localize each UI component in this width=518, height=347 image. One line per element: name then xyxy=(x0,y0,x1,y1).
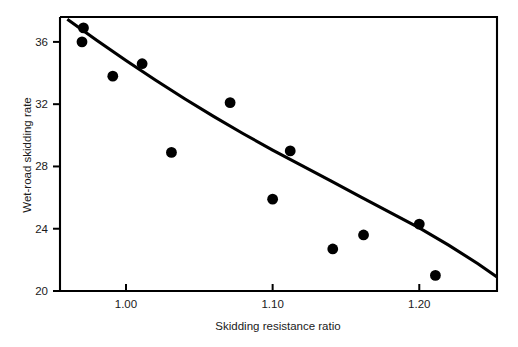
x-tick-label: 1.10 xyxy=(261,298,283,310)
data-point xyxy=(78,23,89,34)
fitted-curve xyxy=(67,19,497,277)
data-point xyxy=(430,270,441,281)
y-tick-label: 32 xyxy=(35,98,48,110)
data-point xyxy=(77,37,88,48)
y-tick-label: 28 xyxy=(35,160,48,172)
data-point xyxy=(267,194,278,205)
data-point xyxy=(414,219,425,230)
data-point xyxy=(285,145,296,156)
x-axis-tick-labels: 1.001.101.20 xyxy=(115,298,431,310)
y-tick-label: 24 xyxy=(35,223,48,235)
scatter-chart-figure: 3632282420 1.001.101.20 Skidding resista… xyxy=(0,0,518,347)
data-point xyxy=(107,71,118,82)
y-tick-label: 20 xyxy=(35,285,48,297)
chart-canvas: 3632282420 1.001.101.20 Skidding resista… xyxy=(0,0,518,347)
data-point xyxy=(225,97,236,108)
y-axis-title: Wet-road skidding rate xyxy=(21,97,33,212)
data-point xyxy=(358,230,369,241)
x-axis-title: Skidding resistance ratio xyxy=(215,320,340,332)
data-point xyxy=(166,147,177,158)
data-point xyxy=(137,58,148,69)
data-point-series xyxy=(77,23,441,281)
data-point xyxy=(327,244,338,255)
y-axis-tick-labels: 3632282420 xyxy=(35,36,48,297)
y-tick-label: 36 xyxy=(35,36,48,48)
x-tick-label: 1.20 xyxy=(408,298,430,310)
x-tick-label: 1.00 xyxy=(115,298,137,310)
